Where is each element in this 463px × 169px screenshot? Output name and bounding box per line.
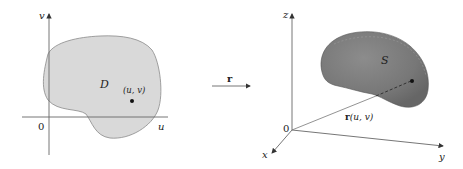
point-uv-label: (u, v) xyxy=(123,85,145,95)
parameter-domain-panel: v u 0 D (u, v) xyxy=(22,10,168,155)
x-axis-label: x xyxy=(262,149,268,160)
position-vector-label: r(u, v) xyxy=(345,112,374,122)
mapping-arrow: r xyxy=(212,73,250,86)
u-axis-label: u xyxy=(158,121,164,132)
surface-s xyxy=(321,32,428,108)
diagram-canvas: v u 0 D (u, v) r z x y 0 S r(u, v) xyxy=(0,0,463,169)
region-d-label: D xyxy=(99,78,109,91)
origin-label-right: 0 xyxy=(283,123,289,134)
mapping-label: r xyxy=(227,73,233,84)
surface-point xyxy=(410,79,414,83)
v-axis-label: v xyxy=(39,10,45,21)
surface-panel: z x y 0 S r(u, v) xyxy=(262,9,445,162)
z-axis-label: z xyxy=(282,9,289,20)
y-axis-label: y xyxy=(438,151,445,162)
point-uv xyxy=(130,99,134,103)
origin-label-left: 0 xyxy=(38,121,44,132)
y-axis xyxy=(292,130,443,146)
surface-s-label: S xyxy=(381,54,389,67)
vector-args: (u, v) xyxy=(350,112,374,122)
